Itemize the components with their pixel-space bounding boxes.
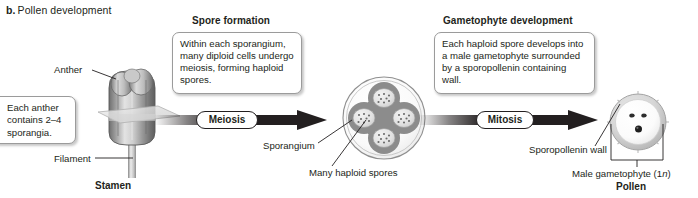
structure-name-pollen: Pollen [616, 181, 646, 192]
arrow-mitosis: Mitosis [418, 107, 598, 133]
arrow-label-mitosis: Mitosis [476, 111, 534, 129]
panel-label: b.Pollen development [6, 4, 112, 16]
label-many-haploid-spores: Many haploid spores [309, 167, 398, 178]
label-anther: Anther [54, 64, 82, 75]
structure-name-stamen: Stamen [95, 180, 131, 191]
heading-gametophyte-development: Gametophyte development [443, 15, 573, 26]
diagram-canvas: b.Pollen development Spore formation Gam… [0, 0, 698, 198]
panel-letter: b. [6, 4, 16, 16]
label-sporopollenin-line1: Sporopollenin wall [529, 144, 607, 155]
arrow-meiosis: Meiosis [154, 107, 327, 133]
pollen-illustration [604, 88, 672, 156]
page-title: Pollen development [18, 4, 112, 16]
label-male-gametophyte-text: Male gametophyte (1 [572, 168, 662, 179]
label-sporangium: Sporangium [263, 140, 315, 151]
heading-spore-formation: Spore formation [192, 15, 270, 26]
label-male-gametophyte: Male gametophyte (1n) [572, 168, 671, 179]
label-sporopollenin-wall: Sporopollenin wall [529, 144, 607, 156]
label-ploidy-close: ) [667, 168, 670, 179]
label-filament: Filament [54, 153, 91, 164]
callout-spore-formation: Within each sporangium, many diploid cel… [172, 32, 302, 94]
sporangium-illustration [340, 74, 428, 162]
callout-gametophyte-development: Each haploid spore develops into a male … [434, 32, 595, 94]
arrow-label-meiosis: Meiosis [196, 111, 258, 129]
callout-anther: Each anther contains 2–4 sporangia. [0, 96, 76, 144]
